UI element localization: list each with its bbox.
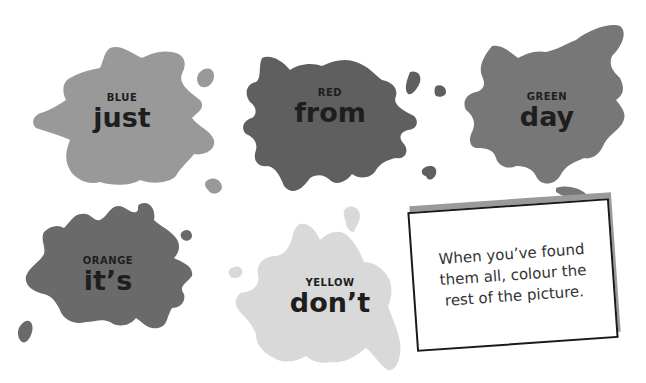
splat-red-droplet xyxy=(406,71,421,94)
hidden-word: don’t xyxy=(290,288,370,318)
hidden-word: day xyxy=(520,102,574,132)
note-card: When you’ve found them all, colour the r… xyxy=(407,198,618,352)
splat-blue-droplet xyxy=(197,69,214,88)
splat-label-yellow: YELLOW don’t xyxy=(290,277,370,318)
note-text: When you’ve found them all, colour the r… xyxy=(421,237,605,312)
splat-yellow-droplet xyxy=(229,266,243,278)
hidden-word: just xyxy=(93,103,150,133)
splat-orange-droplet xyxy=(18,321,33,343)
hidden-word: from xyxy=(294,98,366,128)
splat-label-green: GREEN day xyxy=(520,91,574,132)
splat-red-droplet xyxy=(422,166,436,180)
splat-blue-droplet xyxy=(205,178,222,193)
splat-yellow-droplet xyxy=(344,206,360,232)
splat-label-red: RED from xyxy=(294,87,366,128)
splat-orange-droplet xyxy=(181,230,192,241)
splat-label-blue: BLUE just xyxy=(93,92,150,133)
splat-label-orange: ORANGE it’s xyxy=(83,255,133,296)
splat-red-droplet xyxy=(435,85,447,97)
hidden-word: it’s xyxy=(83,266,133,296)
